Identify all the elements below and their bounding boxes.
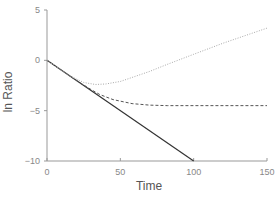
x-tick-label: 50 [115, 167, 125, 177]
y-tick-label: −5 [30, 106, 40, 116]
y-tick-label: 0 [35, 55, 40, 65]
x-axis-title: Time [136, 179, 163, 193]
series-group [47, 28, 267, 161]
axes [47, 10, 267, 161]
x-tick-label: 100 [186, 167, 201, 177]
y-ticks: −10−505 [25, 5, 47, 166]
y-tick-label: −10 [25, 156, 40, 166]
series-line-dashed [47, 60, 267, 105]
chart: −10−505 050100150 Time ln Ratio [0, 0, 279, 199]
series-line-dotted [47, 28, 267, 84]
x-tick-label: 150 [259, 167, 274, 177]
y-axis-title: ln Ratio [1, 71, 15, 112]
x-tick-label: 0 [44, 167, 49, 177]
y-tick-label: 5 [35, 5, 40, 15]
